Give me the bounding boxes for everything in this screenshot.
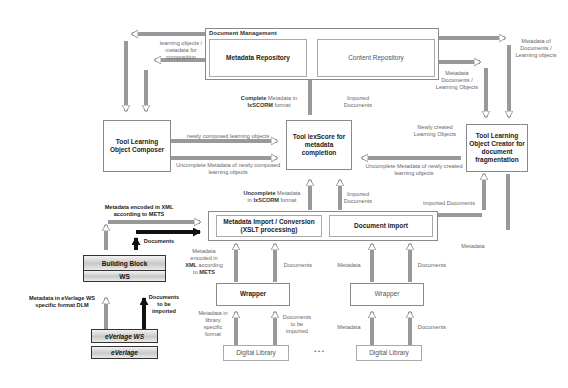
building-block[interactable]: Building Block [83,255,166,271]
ellipsis-dots: • • • [295,348,343,356]
label-documents-to-be-imported-ev: Documents to be imported [148,294,180,315]
label-documents-w2: Documents [414,262,450,269]
digital-library-2[interactable]: Digital Library [356,345,422,361]
tool-lexscore[interactable]: Tool lexScore for metadata completion [286,120,352,170]
label-learning-objects-metadata: learning objects / metadata for composit… [150,40,212,61]
wrapper-2[interactable]: Wrapper [350,283,424,306]
ws-block[interactable]: WS [83,270,166,282]
tool-learning-object-creator[interactable]: Tool Learning Object Creator for documen… [466,124,528,172]
label-imported-documents-top: Imported Documents [338,95,378,109]
label-metadata-lib-specific: Metadata in library specific format [196,310,230,338]
label-uncomplete-created: Uncomplete Metadata of newly created lea… [364,163,464,177]
document-import[interactable]: Document import [329,215,433,237]
tool-learning-object-composer[interactable]: Tool Learning Object Composer [103,120,171,172]
label-uncomplete-composed: Uncomplete Metadata of newly composed le… [170,162,286,176]
import-group: Metadata Import / Conversion (XSLT proce… [208,211,438,241]
label-documents-left: Documents [142,238,176,245]
label-metadata-everlage-format: Metadata in eVerlage WS specific format … [22,295,102,309]
label-newly-composed: newly composed learning objects [178,133,278,140]
label-metadata-xml-mets-top: Metadata encoded in XML according to MET… [96,204,182,218]
wrapper-1[interactable]: Wrapper [216,283,290,306]
label-metadata-right: Metadata [458,243,488,250]
label-documents-w1: Documents [280,262,316,269]
everlage-ws-block[interactable]: eVerlage WS [91,329,158,343]
document-management-title: Document Management [209,30,277,36]
label-metadata-w2: Metadata [334,262,364,269]
label-metadata-of-documents: Metadata of Documents / Learning objects [514,38,558,59]
label-documents-to-be-imported-lib: Documents to be imported [280,314,314,335]
document-management-group: Document Management Metadata Repository … [205,28,439,80]
label-metadata-documents-los: Metadata Documents / Learning Objects [432,70,482,91]
metadata-repository[interactable]: Metadata Repository [209,39,307,77]
label-metadata-lib2: Metadata [334,324,364,331]
label-metadata-xml-mets-w1: Metadata encoded in XML according to MET… [185,248,223,276]
label-newly-created: Newly created Learning Objects [412,124,458,138]
label-uncomplete-lxscorm: Uncomplete Metadata in lxSCORM format [238,190,306,204]
label-documents-lib2: Documents [414,324,450,331]
digital-library-1[interactable]: Digital Library [223,345,289,361]
everlage-block[interactable]: eVerlage [91,346,158,359]
label-imported-documents-right: Imported Documents [418,200,480,207]
label-complete-metadata: Complete Metadata in lxSCORM format [232,95,306,109]
content-repository[interactable]: Content Repository [317,39,435,77]
metadata-import-conversion[interactable]: Metadata Import / Conversion (XSLT proce… [216,215,322,237]
label-imported-documents-mid: Imported Documents [340,191,376,205]
